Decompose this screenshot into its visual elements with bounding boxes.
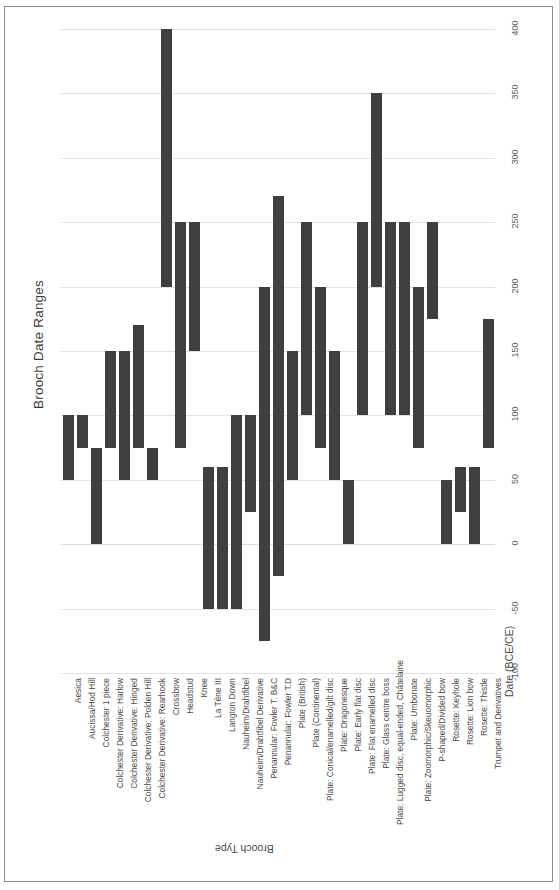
bar-range[interactable] bbox=[427, 222, 438, 319]
bar-range[interactable] bbox=[357, 222, 368, 415]
bar-range[interactable] bbox=[245, 415, 256, 512]
plot-area bbox=[61, 29, 495, 673]
bar-range[interactable] bbox=[287, 351, 298, 480]
category-tick-label: Langton Down bbox=[226, 675, 238, 825]
gridline--100 bbox=[61, 673, 495, 674]
category-tick-label: Rosette: Thistle bbox=[478, 675, 490, 825]
bar-range[interactable] bbox=[77, 415, 88, 447]
bar-range[interactable] bbox=[119, 351, 130, 480]
bar-range[interactable] bbox=[441, 480, 452, 544]
value-tick-100: 100 bbox=[497, 409, 533, 421]
category-tick-label: Colchester 1 piece bbox=[100, 675, 112, 825]
bar-range[interactable] bbox=[203, 467, 214, 609]
category-tick-label: Aesica bbox=[72, 675, 84, 825]
category-tick-label: Plate: Conical/enamelled/gilt disc bbox=[324, 675, 336, 825]
category-tick-label: Colchester Derivative: Polden Hill bbox=[142, 675, 154, 825]
value-tick-350: 350 bbox=[497, 87, 533, 99]
value-tick-label: 300 bbox=[510, 139, 520, 175]
bar-range[interactable] bbox=[161, 29, 172, 287]
category-tick-label: Rosette: Keyhole bbox=[450, 675, 462, 825]
value-tick-label: 0 bbox=[510, 525, 520, 561]
category-tick-label: Plate: Umbonate bbox=[408, 675, 420, 825]
category-axis-label: Brooch Type bbox=[215, 843, 274, 855]
value-tick-300: 300 bbox=[497, 152, 533, 164]
bar-range[interactable] bbox=[147, 448, 158, 480]
value-tick-label: 150 bbox=[510, 332, 520, 368]
value-tick-label: 400 bbox=[510, 10, 520, 46]
bar-range[interactable] bbox=[217, 467, 228, 609]
bar-range[interactable] bbox=[105, 351, 116, 448]
value-tick-200: 200 bbox=[497, 281, 533, 293]
value-tick-label: 50 bbox=[510, 461, 520, 497]
value-tick-0: 0 bbox=[497, 538, 533, 550]
value-tick-400: 400 bbox=[497, 23, 533, 35]
category-tick-label: Plate: Lugged disc, equal-ended, Châtela… bbox=[394, 675, 406, 825]
category-tick-label: Nauheim/Drahtfibel bbox=[240, 675, 252, 825]
bar-series bbox=[61, 29, 495, 673]
bar-range[interactable] bbox=[329, 351, 340, 480]
bar-range[interactable] bbox=[371, 93, 382, 286]
chart-figure: Brooch Date Ranges -100-5005010015020025… bbox=[5, 7, 554, 883]
value-tick-150: 150 bbox=[497, 345, 533, 357]
category-tick-label: Plate (British) bbox=[296, 675, 308, 825]
value-tick-50: 50 bbox=[497, 474, 533, 486]
value-tick-250: 250 bbox=[497, 216, 533, 228]
category-tick-label: Plate: Dragonesque bbox=[338, 675, 350, 825]
value-tick-label: 200 bbox=[510, 268, 520, 304]
bar-range[interactable] bbox=[385, 222, 396, 415]
bar-range[interactable] bbox=[315, 287, 326, 448]
category-tick-label: Knee bbox=[198, 675, 210, 825]
category-tick-label: Plate (Continental) bbox=[310, 675, 322, 825]
category-tick-label: Trumpet and Derivatives bbox=[492, 675, 504, 825]
category-tick-label: Penannular: Fowler T. B&C bbox=[268, 675, 280, 825]
category-tick-label: Colchester Derivative: Rearhook bbox=[156, 675, 168, 825]
value-tick-label: 250 bbox=[510, 203, 520, 239]
value-axis-label: Date (BCE/CE) bbox=[503, 577, 515, 697]
category-tick-label: P-shaped/Divided bow bbox=[436, 675, 448, 825]
category-tick-label: Colchester Derivative: Hinged bbox=[128, 675, 140, 825]
bar-range[interactable] bbox=[301, 222, 312, 415]
category-tick-label: Crossbow bbox=[170, 675, 182, 825]
category-tick-label: Headstud bbox=[184, 675, 196, 825]
bar-range[interactable] bbox=[91, 448, 102, 545]
bar-range[interactable] bbox=[343, 480, 354, 544]
bar-range[interactable] bbox=[273, 196, 284, 576]
value-tick-label: 100 bbox=[510, 396, 520, 432]
bar-range[interactable] bbox=[63, 415, 74, 479]
bar-range[interactable] bbox=[133, 325, 144, 447]
bar-range[interactable] bbox=[231, 415, 242, 608]
chart-title: Brooch Date Ranges bbox=[31, 250, 46, 440]
bar-range[interactable] bbox=[455, 467, 466, 512]
figure-page-border: Brooch Date Ranges -100-5005010015020025… bbox=[4, 6, 553, 882]
bar-range[interactable] bbox=[483, 319, 494, 448]
value-tick-label: 350 bbox=[510, 74, 520, 110]
category-tick-label: Nauheim/Drahtfibel Derivative bbox=[254, 675, 266, 825]
category-tick-label: La Tène III bbox=[212, 675, 224, 825]
category-tick-label: Penannular: Fowler T.D bbox=[282, 675, 294, 825]
category-tick-label: Rosette: Lion bow bbox=[464, 675, 476, 825]
bar-range[interactable] bbox=[399, 222, 410, 415]
category-tick-label: Plate: Zoomorphic/Skeuomorphic bbox=[422, 675, 434, 825]
bar-range[interactable] bbox=[175, 222, 186, 447]
category-tick-label: Plate: Flat enamelled disc bbox=[366, 675, 378, 825]
category-tick-label: Plate: Glass centre boss bbox=[380, 675, 392, 825]
category-tick-label: Plate: Early flat disc bbox=[352, 675, 364, 825]
category-tick-label: Colchester Derivative: Harlow bbox=[114, 675, 126, 825]
bar-range[interactable] bbox=[413, 287, 424, 448]
category-axis-ticks: AesicaAucissa/Hod HillColchester 1 piece… bbox=[61, 675, 495, 835]
bar-range[interactable] bbox=[189, 222, 200, 351]
bar-range[interactable] bbox=[259, 287, 270, 641]
category-tick-label: Aucissa/Hod Hill bbox=[86, 675, 98, 825]
bar-range[interactable] bbox=[469, 467, 480, 544]
